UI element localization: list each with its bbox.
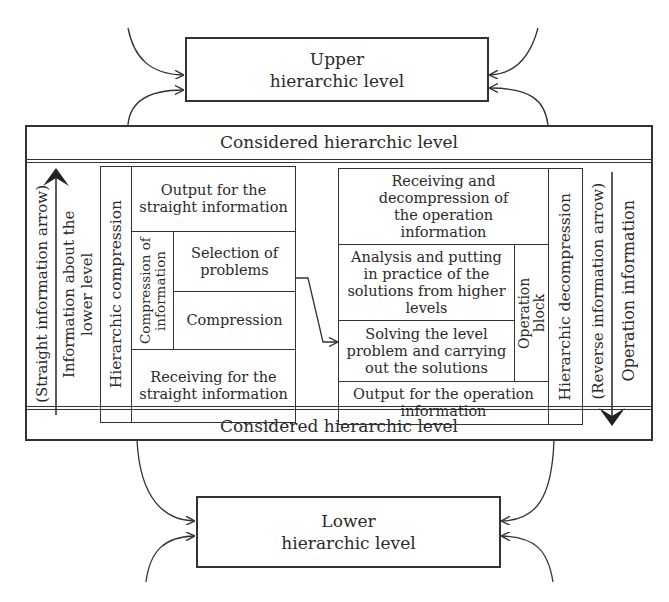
- analysis-cell: Analysis and putting in practice of the …: [338, 244, 515, 321]
- output-operation-cell: Output for the operation information: [338, 381, 549, 425]
- receiving-straight-cell: Receiving for the straight information: [131, 349, 296, 423]
- lower-hierarchic-level-box: Lower hierarchic level: [196, 496, 501, 568]
- straight-arrow-label: (Straight information arrow): [32, 166, 52, 422]
- lower-level-label: Lower hierarchic level: [279, 510, 419, 554]
- receiving-decompression-cell: Receiving and decompression of the opera…: [338, 168, 549, 245]
- upper-level-label: Upper hierarchic level: [267, 48, 407, 92]
- considered-top-label: Considered hierarchic level: [220, 132, 458, 152]
- reverse-arrow-label: (Reverse information arrow): [587, 166, 609, 416]
- upper-hierarchic-level-box: Upper hierarchic level: [185, 37, 489, 102]
- hierarchic-compression-column: Hierarchic compression: [100, 166, 132, 423]
- operation-block-column: Operation block: [514, 244, 549, 382]
- operation-information-label: Operation information: [616, 166, 642, 416]
- solving-cell: Solving the level problem and carrying o…: [338, 320, 515, 382]
- hierarchic-decompression-column: Hierarchic decompression: [548, 168, 583, 425]
- compression-of-information-column: Compression of information: [131, 231, 174, 350]
- selection-of-problems-cell: Selection of problems: [173, 231, 296, 292]
- considered-top-bar: Considered hierarchic level: [25, 125, 653, 163]
- output-straight-cell: Output for the straight information: [131, 166, 296, 232]
- compression-cell: Compression: [173, 291, 296, 350]
- info-lower-level-label: Information about the lower level: [58, 166, 98, 422]
